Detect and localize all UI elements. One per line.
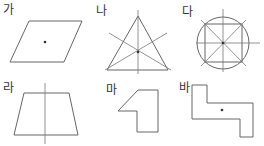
figure-ma-shape — [118, 90, 158, 132]
figure-ra-trapezoid — [14, 83, 78, 144]
center-point — [222, 42, 225, 45]
figure-ga-parallelogram — [10, 21, 82, 62]
center-point — [137, 51, 140, 54]
figure-na-triangle — [105, 10, 171, 74]
center-point — [221, 109, 224, 112]
figures-canvas — [0, 0, 264, 146]
center-point — [44, 41, 47, 44]
figure-ba-shape — [192, 85, 253, 137]
figure-da-circle-square — [196, 9, 260, 72]
